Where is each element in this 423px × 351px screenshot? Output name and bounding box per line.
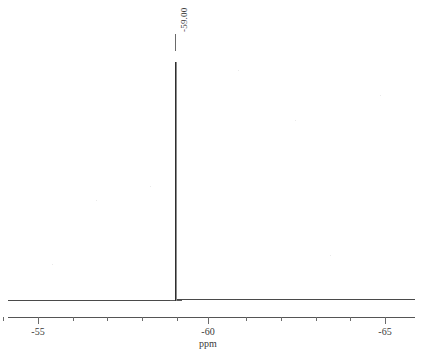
peak-label-leader-icon xyxy=(175,34,176,51)
spectrum-baseline-right xyxy=(176,299,415,300)
x-axis-tick-major xyxy=(208,317,209,324)
plot-area: -59.00 -55 -60 -65 ppm xyxy=(0,0,423,351)
scan-speckle xyxy=(330,255,331,256)
x-axis-title: ppm xyxy=(199,338,217,349)
scan-speckle xyxy=(96,200,97,201)
x-axis-tick-minor xyxy=(73,317,74,321)
x-axis-tick-minor xyxy=(246,317,247,321)
nmr-spectrum-figure: -59.00 -55 -60 -65 ppm xyxy=(0,0,423,351)
x-axis-tick-major xyxy=(385,317,386,324)
peak-line-shadow xyxy=(176,62,177,301)
x-axis-tick-minor xyxy=(350,317,351,321)
scan-speckle xyxy=(380,95,381,96)
scan-speckle xyxy=(295,120,296,121)
x-axis-tick-minor xyxy=(177,317,178,321)
x-axis-tick-major xyxy=(38,317,39,324)
scan-speckle xyxy=(52,264,53,265)
peak-shift-label: -59.00 xyxy=(179,8,189,32)
x-axis-tick-minor xyxy=(3,317,4,321)
x-axis-label-minus55: -55 xyxy=(31,326,44,337)
spectrum-baseline-left xyxy=(8,300,175,301)
scan-speckle xyxy=(150,186,151,187)
x-axis-label-minus60: -60 xyxy=(201,326,214,337)
x-axis-label-minus65: -65 xyxy=(378,326,391,337)
scan-speckle xyxy=(238,70,239,71)
x-axis-line xyxy=(8,317,415,318)
x-axis-tick-minor xyxy=(281,317,282,321)
x-axis-tick-minor xyxy=(142,317,143,321)
x-axis-tick-minor xyxy=(107,317,108,321)
x-axis-tick-minor xyxy=(316,317,317,321)
